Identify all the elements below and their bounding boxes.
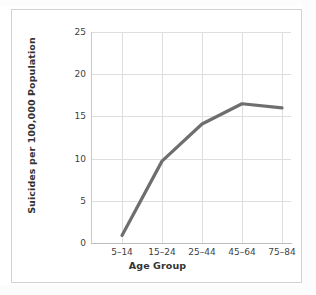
series-polyline (122, 104, 282, 236)
y-tick-label: 25 (46, 27, 86, 37)
x-tick-label: 75–84 (252, 247, 312, 257)
y-tick-label: 5 (46, 196, 86, 206)
y-tick-label: 20 (46, 69, 86, 79)
x-axis-title: Age Group (12, 260, 303, 271)
y-tick-labels: 0510152025 (12, 10, 91, 244)
y-tick-label: 15 (46, 111, 86, 121)
figure-frame: Suicides per 100,000 Population 05101520… (11, 9, 302, 283)
series-line (91, 32, 292, 244)
line-chart: Suicides per 100,000 Population 05101520… (12, 10, 303, 284)
page-edge-top (0, 0, 316, 6)
y-tick-label: 10 (46, 154, 86, 164)
page-edge-bottom (0, 285, 316, 295)
